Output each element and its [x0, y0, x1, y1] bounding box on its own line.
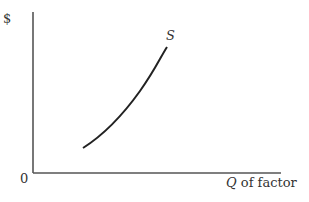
- x-axis-label-rest: of factor: [237, 175, 297, 190]
- curve-label-s: S: [166, 29, 175, 42]
- x-axis-label-var: Q: [226, 175, 237, 190]
- y-axis-label: $: [3, 12, 11, 25]
- origin-label: 0: [20, 172, 28, 185]
- x-axis-label: Q of factor: [226, 176, 297, 189]
- supply-curve: [83, 47, 167, 148]
- chart-plot: [0, 0, 309, 202]
- chart-canvas: $ 0 S Q of factor: [0, 0, 309, 202]
